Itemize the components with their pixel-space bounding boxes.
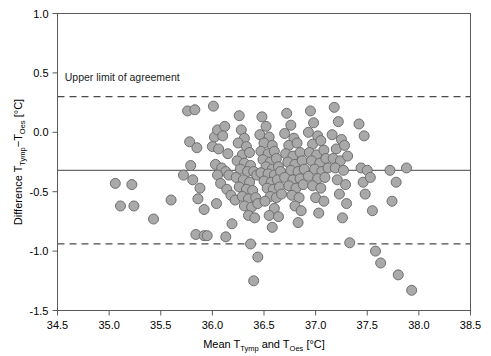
data-point (401, 163, 411, 173)
data-point (280, 128, 290, 138)
data-point (253, 252, 263, 262)
data-point (393, 270, 403, 280)
data-point (186, 161, 196, 171)
data-point (327, 130, 337, 140)
data-point (320, 172, 330, 182)
bland-altman-figure: 1.00.50.0-0.5-1.0-1.5 34.535.035.536.036… (0, 0, 491, 356)
y-tick-label: -1.0 (30, 245, 49, 257)
data-point (337, 213, 347, 223)
data-point (371, 246, 381, 256)
data-point (282, 108, 292, 118)
data-point (195, 183, 205, 193)
data-point (391, 177, 401, 187)
data-point (309, 118, 319, 128)
data-point (277, 189, 287, 199)
x-tick-label: 34.5 (47, 319, 68, 331)
data-point (341, 180, 351, 190)
data-point (264, 210, 274, 220)
data-point (345, 238, 355, 248)
data-point (314, 208, 324, 218)
data-point (286, 120, 296, 130)
data-point (246, 239, 256, 249)
data-point (214, 144, 224, 154)
data-point (227, 219, 237, 229)
data-point (234, 111, 244, 121)
data-point (273, 212, 283, 222)
data-point (293, 218, 303, 228)
data-point (319, 196, 329, 206)
data-point (110, 178, 120, 188)
data-point (305, 106, 315, 116)
data-point (340, 140, 350, 150)
data-point (343, 151, 353, 161)
data-point (221, 232, 231, 242)
x-tick-label: 35.0 (98, 319, 119, 331)
data-point (267, 222, 277, 232)
data-point (360, 189, 370, 199)
data-point (212, 199, 222, 209)
data-point (249, 276, 259, 286)
x-tick-label: 36.0 (202, 319, 223, 331)
upper-limit-of-agreement-label: Upper limit of agreement (65, 71, 180, 83)
x-tick-label: 37.5 (357, 319, 378, 331)
data-point (149, 214, 159, 224)
y-tick-label: -1.5 (30, 305, 49, 317)
x-tick-label: 38.0 (408, 319, 429, 331)
data-point (202, 231, 212, 241)
data-point (193, 194, 203, 204)
x-tick-label: 36.5 (253, 319, 274, 331)
y-tick-label: 0.0 (33, 126, 48, 138)
y-tick-label: 0.5 (33, 67, 48, 79)
data-point (333, 117, 343, 127)
data-point (220, 121, 230, 131)
y-tick-label: -0.5 (30, 186, 49, 198)
data-point (223, 149, 233, 159)
data-point (260, 196, 270, 206)
data-point (339, 165, 349, 175)
data-point (385, 165, 395, 175)
data-point (257, 112, 267, 122)
data-point (316, 183, 326, 193)
data-point (261, 121, 271, 131)
x-tick-label: 37.0 (305, 319, 326, 331)
x-tick-label: 35.5 (150, 319, 171, 331)
data-point (245, 148, 255, 158)
data-point (354, 119, 364, 129)
data-point (342, 199, 352, 209)
data-point (199, 205, 209, 215)
data-point (166, 195, 176, 205)
data-point (376, 258, 386, 268)
data-point (178, 170, 188, 180)
data-point (208, 101, 218, 111)
plot-annotations: Upper limit of agreement (65, 71, 180, 83)
data-point (188, 175, 198, 185)
x-tick-label: 38.5 (460, 319, 481, 331)
y-tick-label: 1.0 (33, 8, 48, 20)
data-point (192, 143, 202, 153)
data-point (115, 201, 125, 211)
data-point (292, 138, 302, 148)
data-point (329, 102, 339, 112)
data-point (127, 180, 137, 190)
data-point (407, 285, 417, 295)
data-point (359, 131, 369, 141)
data-point (367, 206, 377, 216)
data-point (387, 196, 397, 206)
data-point (334, 189, 344, 199)
data-point (303, 171, 313, 181)
data-point (365, 172, 375, 182)
data-point (218, 131, 228, 141)
data-point (303, 127, 313, 137)
data-point (250, 213, 260, 223)
data-point (129, 201, 139, 211)
scatter-plot-canvas: 1.00.50.0-0.5-1.0-1.5 34.535.035.536.036… (0, 0, 491, 356)
data-point (190, 105, 200, 115)
data-point (296, 206, 306, 216)
data-point (316, 136, 326, 146)
